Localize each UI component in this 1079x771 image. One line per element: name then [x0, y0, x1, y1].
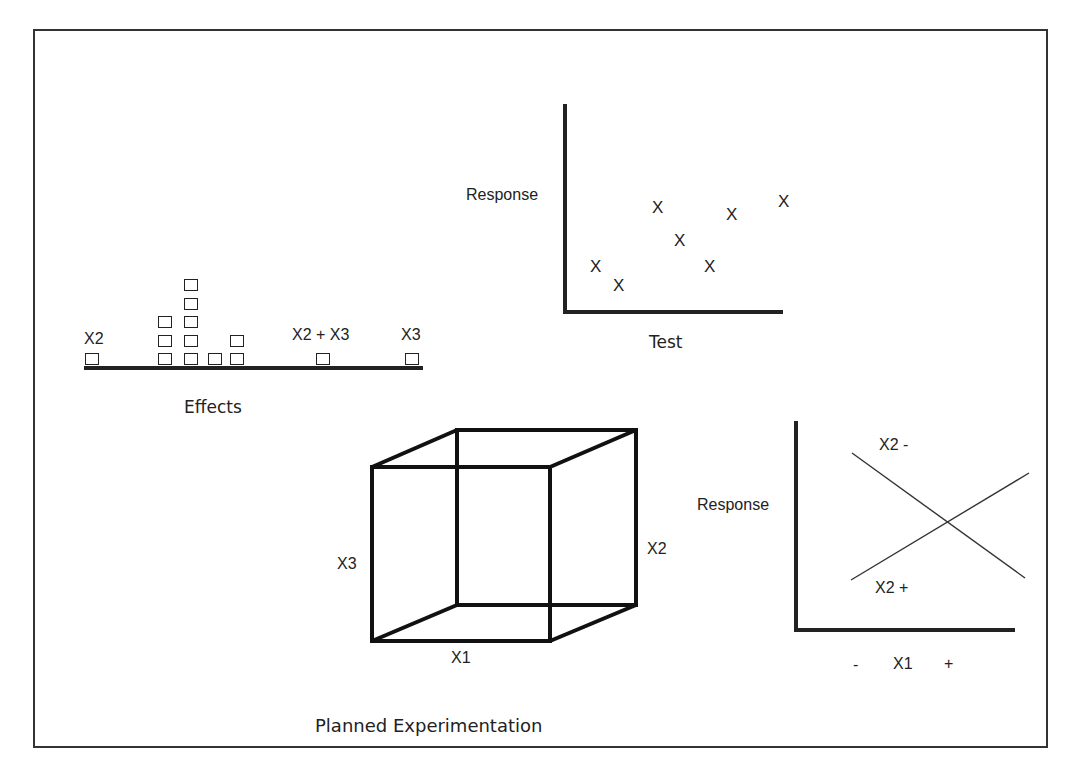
interaction-x-minus: -: [853, 656, 858, 674]
effect-square: [158, 335, 172, 347]
effect-square: [184, 316, 198, 328]
effect-square: [208, 353, 222, 365]
scatter-point: X: [674, 231, 685, 251]
effect-square: [184, 335, 198, 347]
interaction-ylabel: Response: [697, 496, 769, 514]
effect-square: [184, 279, 198, 291]
scatter-ylabel: Response: [466, 186, 538, 204]
effects-label-x2x3: X2 + X3: [292, 326, 349, 344]
effect-square: [184, 353, 198, 365]
cube-label-x1: X1: [451, 649, 471, 667]
interaction-xlabel: X1: [893, 655, 913, 673]
effect-square: [316, 353, 330, 365]
effect-square: [184, 298, 198, 310]
effect-square: [230, 335, 244, 347]
figure-title: Planned Experimentation: [315, 715, 542, 736]
effects-caption: Effects: [184, 397, 242, 417]
effect-square: [85, 353, 99, 365]
effect-square: [230, 353, 244, 365]
diagram-graphics: [0, 0, 1079, 771]
scatter-point: X: [613, 276, 624, 296]
line-x2-plus: [851, 473, 1029, 580]
scatter-point: X: [652, 198, 663, 218]
interaction-label-x2-plus: X2 +: [875, 579, 908, 597]
effects-label-x2: X2: [84, 330, 104, 348]
interaction-x-plus: +: [944, 655, 953, 673]
scatter-point: X: [590, 257, 601, 277]
scatter-point: X: [704, 257, 715, 277]
scatter-xlabel: Test: [649, 332, 682, 352]
effect-square: [158, 316, 172, 328]
scatter-point: X: [778, 192, 789, 212]
cube-label-x3: X3: [337, 555, 357, 573]
scatter-point: X: [726, 205, 737, 225]
cube-icon: [372, 430, 636, 641]
effect-square: [158, 353, 172, 365]
cube-label-x2: X2: [647, 540, 667, 558]
effects-label-x3: X3: [401, 326, 421, 344]
line-x2-minus: [852, 453, 1025, 578]
interaction-label-x2-minus: X2 -: [879, 436, 908, 454]
effect-square: [405, 353, 419, 365]
